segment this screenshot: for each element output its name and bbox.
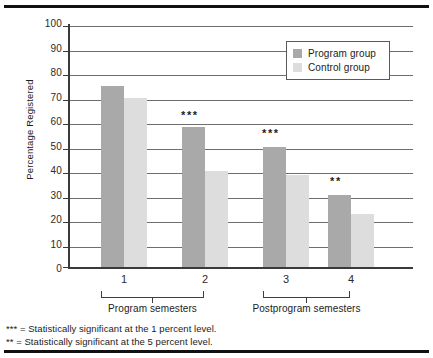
bar-control-sem3 xyxy=(286,175,309,267)
group-label-program-semesters: Program semesters xyxy=(82,303,223,315)
significance-sem4: ** xyxy=(330,177,342,186)
bracket-program-semesters xyxy=(101,291,204,298)
top-rule xyxy=(4,5,429,8)
bar-program-sem1 xyxy=(101,86,124,267)
group-label-postprogram-semesters: Postprogram semesters xyxy=(236,303,377,315)
y-tick-80: 80 xyxy=(36,68,62,78)
y-tick-60: 60 xyxy=(36,117,62,127)
y-tick-0: 0 xyxy=(36,264,62,274)
bar-control-sem4 xyxy=(351,214,374,267)
y-tick-90: 90 xyxy=(36,44,62,54)
x-axis-line xyxy=(68,267,413,269)
bar-control-sem1 xyxy=(124,98,147,267)
legend-label-control: Control group xyxy=(308,62,370,73)
bracket-postprogram-semesters xyxy=(263,291,350,298)
footnote-two-star: ** = Statistically significant at the 5 … xyxy=(6,335,426,348)
y-axis-tick-labels: 100 90 80 70 60 50 40 30 20 10 0 xyxy=(34,24,62,269)
x-tick-2: 2 xyxy=(193,274,217,285)
legend-swatch-program-icon xyxy=(293,49,302,58)
bar-control-sem2 xyxy=(205,171,228,267)
legend-swatch-control-icon xyxy=(293,63,302,72)
bar-program-sem2 xyxy=(182,127,205,267)
legend-item-program: Program group xyxy=(293,46,383,60)
figure-container: 100 90 80 70 60 50 40 30 20 10 0 Percent… xyxy=(0,0,433,358)
footnote-three-star: *** = Statistically significant at the 1… xyxy=(6,322,426,335)
y-tick-20: 20 xyxy=(36,215,62,225)
bar-program-sem4 xyxy=(328,195,351,267)
y-tick-50: 50 xyxy=(36,142,62,152)
significance-sem2: *** xyxy=(181,111,199,120)
y-axis-title: Percentage Registered xyxy=(24,55,35,205)
bottom-rule xyxy=(4,350,429,353)
y-tick-70: 70 xyxy=(36,93,62,103)
legend: Program group Control group xyxy=(286,41,390,80)
x-tick-4: 4 xyxy=(339,274,363,285)
y-tick-100: 100 xyxy=(36,19,62,29)
footnotes: *** = Statistically significant at the 1… xyxy=(6,322,426,348)
legend-item-control: Control group xyxy=(293,60,383,74)
legend-label-program: Program group xyxy=(308,48,376,59)
significance-sem3: *** xyxy=(262,129,280,138)
y-axis-line xyxy=(68,24,70,269)
y-tick-10: 10 xyxy=(36,240,62,250)
x-tick-3: 3 xyxy=(274,274,298,285)
bar-program-sem3 xyxy=(263,147,286,268)
y-tick-30: 30 xyxy=(36,191,62,201)
x-tick-1: 1 xyxy=(112,274,136,285)
y-tick-40: 40 xyxy=(36,166,62,176)
gridline-100 xyxy=(68,26,413,27)
